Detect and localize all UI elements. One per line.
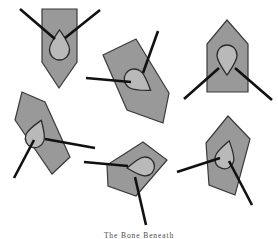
figure-caption: The Bone Beneath (0, 231, 278, 239)
figure-canvas (0, 0, 278, 239)
figure-container: The Bone Beneath (0, 0, 278, 239)
